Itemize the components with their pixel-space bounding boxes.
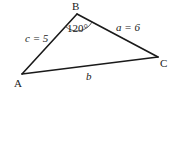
vertex-a-label: A [14, 77, 22, 89]
vertex-c-label: C [160, 57, 167, 69]
angle-b-label: 120° [67, 22, 88, 34]
side-c-label: c = 5 [25, 32, 49, 44]
side-b-label: b [86, 70, 92, 82]
side-a-label: a = 6 [116, 21, 140, 33]
triangle-diagram: B A C 120° c = 5 a = 6 b [0, 0, 175, 149]
vertex-b-label: B [72, 0, 79, 12]
